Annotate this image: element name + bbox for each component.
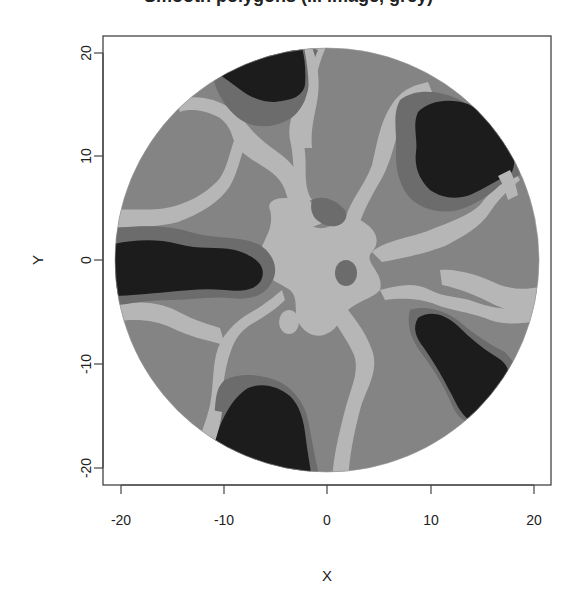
- x-tick-label: -20: [111, 512, 131, 528]
- contour-fill-group: [100, 40, 560, 480]
- y-tick-label: -20: [78, 458, 94, 478]
- x-axis: [121, 485, 534, 494]
- y-axis: [94, 53, 103, 468]
- y-tick-label: 20: [78, 45, 94, 61]
- x-tick-label: 20: [526, 512, 542, 528]
- x-tick-label: 10: [423, 512, 439, 528]
- y-tick-label: 0: [78, 256, 94, 264]
- y-tick-label: 10: [78, 148, 94, 164]
- y-axis-label: Y: [29, 255, 46, 265]
- y-tick-label: -10: [78, 354, 94, 374]
- x-axis-label: X: [322, 567, 332, 584]
- x-tick-label: 0: [323, 512, 331, 528]
- x-tick-label: -10: [214, 512, 234, 528]
- contour-plot: [0, 0, 577, 604]
